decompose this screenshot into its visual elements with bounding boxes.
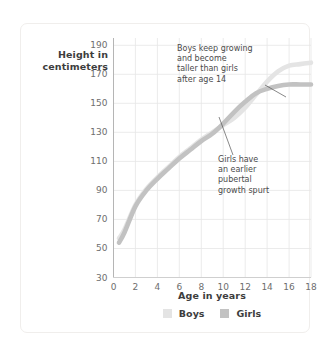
x-tick-12: 12 [236, 282, 254, 292]
legend-label-boys: Boys [179, 308, 205, 319]
y-tick-150: 150 [82, 98, 108, 108]
y-tick-170: 170 [82, 69, 108, 79]
x-axis-title: Age in years [113, 290, 311, 302]
x-tick-2: 2 [126, 282, 144, 292]
legend-swatch-boys [163, 309, 172, 318]
x-tick-0: 0 [105, 282, 123, 292]
chart-legend: Boys Girls [113, 308, 311, 319]
y-tick-50: 50 [82, 243, 108, 253]
x-tick-16: 16 [280, 282, 298, 292]
series-line-boys [119, 63, 311, 239]
legend-item-girls[interactable]: Girls [220, 308, 261, 319]
x-tick-14: 14 [258, 282, 276, 292]
legend-label-girls: Girls [236, 308, 261, 319]
x-tick-4: 4 [148, 282, 166, 292]
x-tick-18: 18 [302, 282, 320, 292]
girls-annotation: Girls have an earlier pubertal growth sp… [218, 155, 296, 196]
x-tick-8: 8 [192, 282, 210, 292]
x-tick-10: 10 [214, 282, 232, 292]
y-tick-110: 110 [82, 156, 108, 166]
legend-swatch-girls [220, 309, 229, 318]
series-lines [119, 63, 311, 243]
y-tick-190: 190 [82, 40, 108, 50]
x-tick-6: 6 [170, 282, 188, 292]
y-tick-130: 130 [82, 127, 108, 137]
y-tick-70: 70 [82, 214, 108, 224]
y-tick-90: 90 [82, 185, 108, 195]
boys-annotation: Boys keep growing and become taller than… [177, 44, 277, 85]
legend-item-boys[interactable]: Boys [163, 308, 205, 319]
